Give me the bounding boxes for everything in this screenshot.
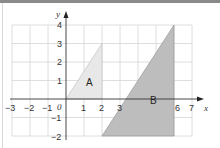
coordinate-grid-diagram: x y 0 −3 −2 −1 1 2 3 6 7 4 3 2 1 −1 −2 A… bbox=[0, 0, 220, 148]
shape-label-b: B bbox=[150, 95, 157, 106]
x-tick: 2 bbox=[99, 103, 104, 113]
y-tick: 2 bbox=[57, 57, 62, 67]
x-axis-label: x bbox=[203, 103, 208, 113]
x-axis-arrow-icon bbox=[197, 97, 204, 102]
y-tick: 1 bbox=[57, 76, 62, 86]
x-tick: 1 bbox=[81, 103, 86, 113]
x-tick: −2 bbox=[24, 103, 34, 113]
origin-label: 0 bbox=[57, 102, 62, 112]
y-tick: 4 bbox=[57, 20, 62, 30]
y-tick: −1 bbox=[51, 113, 61, 123]
y-axis-label: y bbox=[55, 9, 60, 19]
shape-label-a: A bbox=[86, 77, 93, 88]
y-axis-arrow-icon bbox=[64, 11, 69, 18]
x-tick: −1 bbox=[42, 103, 52, 113]
x-tick: 6 bbox=[175, 103, 180, 113]
x-tick: 7 bbox=[189, 103, 194, 113]
y-tick: 3 bbox=[57, 39, 62, 49]
x-tick: −3 bbox=[5, 103, 15, 113]
y-tick: −2 bbox=[51, 132, 61, 142]
x-tick: 3 bbox=[117, 103, 122, 113]
